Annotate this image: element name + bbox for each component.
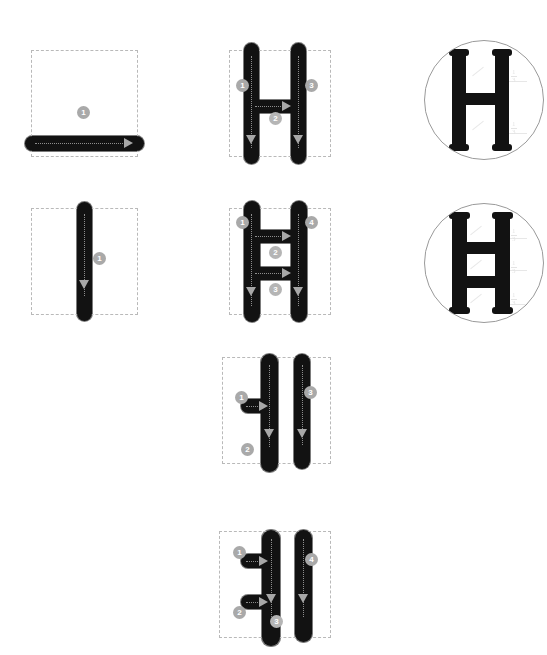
diagram-stroke-1-vertical: 1	[31, 208, 138, 315]
stroke-badge-2: 2	[269, 246, 282, 259]
arrow-right-icon	[282, 101, 291, 111]
arrow-down-icon-left	[246, 287, 256, 296]
diagram-letter-h-four-strokes: 1 4 2 3	[229, 208, 331, 315]
arrow-right-icon-upper	[282, 231, 291, 241]
diagram-glyph-left-tick-four-strokes: 1 2 3 4	[219, 531, 331, 638]
arrow-down-icon-right	[293, 135, 303, 144]
stroke-badge-4: 4	[305, 553, 318, 566]
stroke-badge-1: 1	[236, 216, 249, 229]
stroke-badge-1: 1	[77, 106, 90, 119]
stroke-order-sheet: 1 1 1 2 3	[0, 0, 547, 655]
stroke-left-tick-upper	[241, 554, 273, 568]
stroke-badge-1: 1	[233, 546, 246, 559]
stroke-crossbar-lower	[247, 267, 304, 280]
stroke-crossbar-upper	[247, 230, 304, 243]
stroke-badge-3: 3	[270, 615, 283, 628]
stroke-badge-1: 1	[235, 391, 248, 404]
stroke-vertical-second	[294, 354, 310, 469]
stroke-badge-3: 3	[269, 283, 282, 296]
stroke-badge-3: 3	[305, 79, 318, 92]
arrow-right-icon-lower	[282, 268, 291, 278]
stroke-badge-1: 1	[93, 252, 106, 265]
medallion-glyph-h-double	[425, 204, 543, 322]
medallion-glyph-h	[425, 41, 543, 159]
stroke-badge-2: 2	[269, 112, 282, 125]
diagram-glyph-left-tick-three-strokes: 1 2 3	[222, 357, 331, 464]
arrow-down-icon-left	[246, 135, 256, 144]
arrow-down-icon-main	[264, 429, 274, 438]
arrow-right-icon	[259, 401, 268, 411]
stroke-vertical-second	[295, 530, 312, 642]
arrow-down-icon-second	[298, 594, 308, 603]
medallion-h: 1 3 1 3	[424, 40, 544, 160]
stroke-badge-2: 2	[241, 443, 254, 456]
arrow-right-icon	[124, 138, 133, 148]
stroke-vertical	[77, 202, 92, 321]
arrow-down-icon-right	[293, 287, 303, 296]
stroke-vertical-main	[261, 354, 278, 472]
stroke-vertical-main	[262, 530, 280, 646]
arrow-down-icon-main	[266, 594, 276, 603]
arrow-right-icon-upper	[259, 556, 268, 566]
diagram-stroke-1-horizontal: 1	[31, 50, 138, 157]
stroke-badge-4: 4	[305, 216, 318, 229]
stroke-badge-1: 1	[236, 79, 249, 92]
medallion-h-double: 1 3 1 3 1 3	[424, 203, 544, 323]
stroke-badge-2: 2	[233, 606, 246, 619]
arrow-down-icon-second	[297, 429, 307, 438]
diagram-letter-h-three-strokes: 1 2 3	[229, 50, 331, 157]
arrow-down-icon	[79, 280, 89, 289]
stroke-badge-3: 3	[304, 386, 317, 399]
